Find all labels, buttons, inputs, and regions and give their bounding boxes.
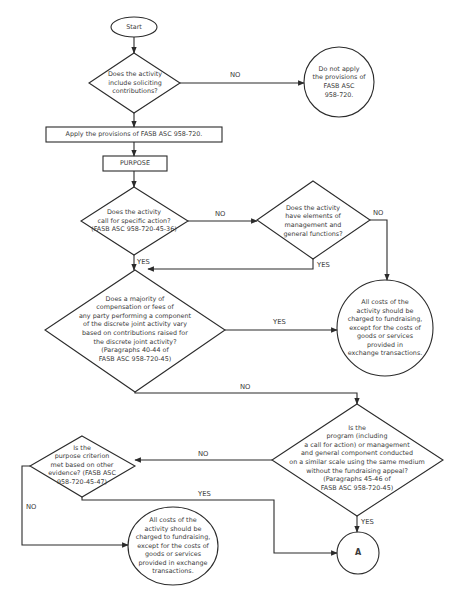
edge-label-yes-evidence: YES xyxy=(198,490,211,498)
edge-label-yes-compensation: YES xyxy=(273,318,286,326)
connector-a-label: A xyxy=(337,543,379,563)
do-not-apply-text: Do not apply the provisions of FASB ASC … xyxy=(305,62,373,102)
apply-provisions-text: Apply the provisions of FASB ASC 958-720… xyxy=(46,127,222,142)
edge-mgmt-no xyxy=(370,220,387,280)
all-costs-text-1: All costs of the activity should be char… xyxy=(339,296,431,360)
edge-label-no-similar: NO xyxy=(198,450,208,458)
start-label: Start xyxy=(111,17,157,37)
other-evidence-question: Is the purpose criterion met based on ot… xyxy=(38,443,126,487)
edge-label-no-mgmt: NO xyxy=(373,209,383,217)
compensation-question: Does a majority of compensation or fees … xyxy=(65,293,205,365)
all-costs-text-2: All costs of the activity should be char… xyxy=(130,514,216,578)
edge-label-no-soliciting: NO xyxy=(230,71,240,79)
edge-label-no-evidence: NO xyxy=(26,503,36,511)
soliciting-question: Does the activity include soliciting con… xyxy=(96,66,174,100)
edge-label-yes-mgmt: YES xyxy=(317,261,330,269)
flowchart-canvas: Start Does the activity include soliciti… xyxy=(0,0,462,611)
purpose-text: PURPOSE xyxy=(103,156,167,171)
edge-label-no-specific: NO xyxy=(215,210,225,218)
edge-label-yes-specific: YES xyxy=(137,258,150,266)
mgmt-general-question: Does the activity have elements of manag… xyxy=(270,203,356,239)
similar-scale-question: Is the program (including a call for act… xyxy=(278,422,436,494)
specific-action-question: Does the activity call for specific acti… xyxy=(84,207,184,235)
edge-mgmt-yes xyxy=(148,259,313,269)
edge-compensation-no xyxy=(135,392,357,404)
edge-label-yes-similar: YES xyxy=(361,518,374,526)
edge-label-no-compensation: NO xyxy=(240,383,250,391)
